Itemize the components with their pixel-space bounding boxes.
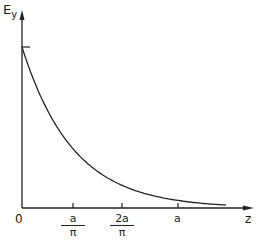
plot-canvas xyxy=(0,0,262,240)
x-axis-label: z xyxy=(245,213,251,225)
y-axis-label: Ey xyxy=(3,4,17,21)
tick-label-2a-over-pi: 2aπ xyxy=(110,213,134,238)
y-axis-arrow-icon xyxy=(20,10,25,20)
decay-curve xyxy=(22,47,226,205)
tick-label-a: a xyxy=(174,213,181,225)
tick-label-a-over-pi: aπ xyxy=(61,213,85,238)
origin-label: 0 xyxy=(15,213,23,225)
x-axis-arrow-icon xyxy=(243,206,254,211)
